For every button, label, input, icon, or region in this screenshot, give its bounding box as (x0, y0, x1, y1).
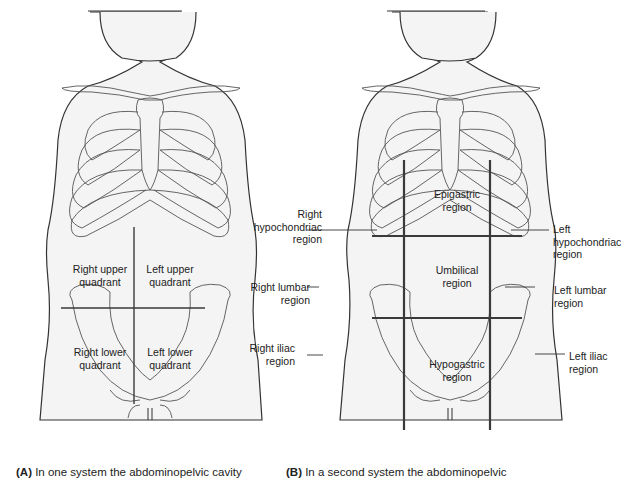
label-line: region (427, 277, 487, 290)
label-line: region (427, 201, 487, 214)
label-right-lumbar-region: Right lumbar region (240, 281, 310, 306)
label-left-iliac-region: Left iliac region (569, 350, 608, 375)
caption-a: (A) In one system the abdominopelvic cav… (16, 466, 242, 478)
label-line: Left upper (138, 263, 202, 276)
label-left-hypochondriac-region: Left hypochondriac region (553, 223, 621, 261)
label-line: region (553, 248, 621, 261)
label-line: region (423, 371, 491, 384)
label-line: region (569, 363, 608, 376)
label-line: quadrant (138, 359, 202, 372)
caption-text: In one system the abdominopelvic cavity (32, 466, 242, 478)
label-line: region (240, 355, 295, 368)
label-line: Left lumbar (554, 284, 607, 297)
panel-nine-regions: Epigastric region Umbilical region Hypog… (307, 0, 614, 460)
label-hypogastric-region: Hypogastric region (423, 358, 491, 383)
label-left-lumbar-region: Left lumbar region (554, 284, 607, 309)
label-line: Right lumbar (240, 281, 310, 294)
label-line: Left lower (138, 346, 202, 359)
label-line: region (250, 233, 322, 246)
label-right-upper-quadrant: Right upper quadrant (68, 263, 132, 288)
label-line: hypochondriac (553, 236, 621, 249)
caption-letter: (A) (16, 466, 32, 478)
label-line: region (554, 297, 607, 310)
label-line: Right lower (68, 346, 132, 359)
caption-letter: (B) (286, 466, 302, 478)
label-line: Left iliac (569, 350, 608, 363)
label-right-lower-quadrant: Right lower quadrant (68, 346, 132, 371)
label-right-iliac-region: Right iliac region (240, 342, 295, 367)
label-umbilical-region: Umbilical region (427, 264, 487, 289)
label-line: Right iliac (240, 342, 295, 355)
caption-text: In a second system the abdominopelvic (302, 466, 507, 478)
label-line: region (240, 294, 310, 307)
label-left-upper-quadrant: Left upper quadrant (138, 263, 202, 288)
label-left-lower-quadrant: Left lower quadrant (138, 346, 202, 371)
label-right-hypochondriac-region: Right hypochondriac region (250, 208, 322, 246)
label-line: Right (250, 208, 322, 221)
label-line: hypochondriac (250, 221, 322, 234)
label-line: quadrant (68, 359, 132, 372)
label-line: Umbilical (427, 264, 487, 277)
label-line: Hypogastric (423, 358, 491, 371)
label-line: Left (553, 223, 621, 236)
label-line: Right upper (68, 263, 132, 276)
label-line: quadrant (138, 276, 202, 289)
label-line: Epigastric (427, 188, 487, 201)
label-line: quadrant (68, 276, 132, 289)
label-epigastric-region: Epigastric region (427, 188, 487, 213)
caption-b: (B) In a second system the abdominopelvi… (286, 466, 507, 478)
